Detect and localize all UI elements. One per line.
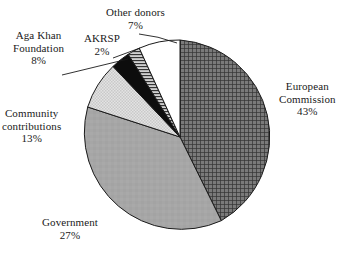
pie-chart: European Commission 43% Government 27% C…: [0, 0, 353, 256]
slice-label-name: Other donors: [106, 6, 165, 19]
slice-label-akrsp: AKRSP 2%: [84, 32, 120, 57]
slice-label-european-commission: European Commission 43%: [279, 80, 336, 118]
slice-label-percent: 43%: [279, 105, 336, 118]
slice-label-name-2: Commission: [279, 93, 336, 106]
slice-label-name-2: contributions: [2, 120, 61, 133]
slice-label-name-2: Foundation: [13, 42, 64, 55]
slice-label-other-donors: Other donors 7%: [106, 6, 165, 31]
slice-label-name: AKRSP: [84, 32, 120, 45]
slice-label-community-contributions: Community contributions 13%: [2, 107, 61, 145]
slice-label-percent: 8%: [13, 54, 64, 67]
slice-label-percent: 27%: [42, 229, 98, 242]
slice-label-name: European: [279, 80, 336, 93]
slice-label-name: Government: [42, 216, 98, 229]
slice-label-percent: 13%: [2, 132, 61, 145]
slice-label-aga-khan-foundation: Aga Khan Foundation 8%: [13, 29, 64, 67]
slice-label-name: Community: [2, 107, 61, 120]
slice-label-percent: 2%: [84, 45, 120, 58]
slice-label-name: Aga Khan: [13, 29, 64, 42]
slice-label-percent: 7%: [106, 19, 165, 32]
slice-label-government: Government 27%: [42, 216, 98, 241]
